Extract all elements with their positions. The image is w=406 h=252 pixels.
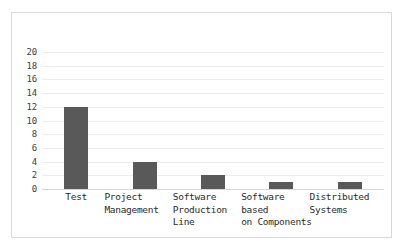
bar[interactable]	[269, 182, 293, 189]
y-axis: 02468101214161820	[12, 52, 40, 189]
y-axis-tick-label: 12	[27, 102, 37, 111]
x-axis: TestProject ManagementSoftware Productio…	[42, 191, 384, 237]
y-axis-tick-label: 0	[32, 185, 37, 194]
chart-frame: 02468101214161820 TestProject Management…	[11, 12, 392, 238]
bar-series	[42, 52, 384, 189]
x-axis-category-label: Distributed Systems	[310, 191, 398, 216]
y-axis-tick-label: 20	[27, 48, 37, 57]
axis-zero-line	[42, 189, 384, 190]
x-axis-category-label: Test	[42, 191, 110, 204]
y-axis-tick-label: 14	[27, 89, 37, 98]
y-axis-tick-label: 16	[27, 75, 37, 84]
y-axis-tick-label: 8	[32, 130, 37, 139]
bar[interactable]	[64, 107, 88, 189]
y-axis-tick-label: 6	[32, 143, 37, 152]
y-axis-tick-label: 10	[27, 116, 37, 125]
y-axis-tick-label: 2	[32, 171, 37, 180]
bar[interactable]	[338, 182, 362, 189]
bar[interactable]	[133, 162, 157, 189]
bar[interactable]	[201, 175, 225, 189]
y-axis-tick-label: 4	[32, 157, 37, 166]
y-axis-tick-label: 18	[27, 61, 37, 70]
